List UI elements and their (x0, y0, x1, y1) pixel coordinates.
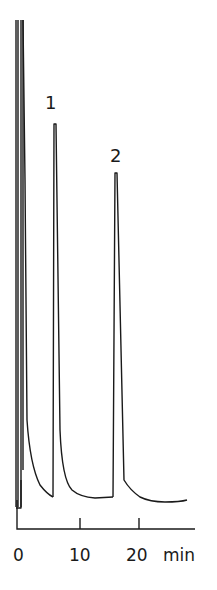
x-axis (17, 500, 195, 529)
x-tick-label-20: 20 (126, 545, 148, 565)
x-axis-unit-label: min (163, 545, 195, 565)
peak-1-trace (53, 124, 113, 498)
x-tick-label-0: 0 (13, 545, 24, 565)
x-tick-label-10: 10 (69, 545, 91, 565)
chromatogram: 1 2 0 10 20 min (0, 0, 217, 590)
peak-2-label: 2 (110, 145, 121, 166)
peak-2-trace (113, 173, 187, 502)
solvent-front-trace (16, 20, 23, 507)
peak-1-label: 1 (45, 92, 56, 113)
